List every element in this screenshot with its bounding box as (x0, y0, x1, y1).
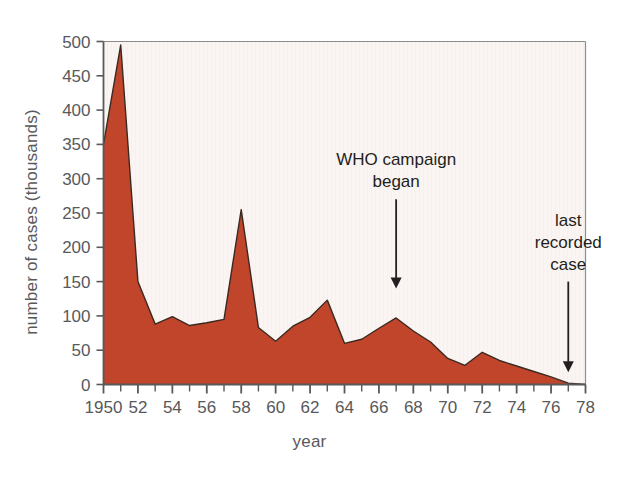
x-tick-label: 76 (542, 398, 561, 417)
annotation-label-line: recorded (535, 233, 602, 252)
x-tick-label: 72 (473, 398, 492, 417)
y-tick-label: 150 (62, 273, 90, 292)
annotation-label-line: WHO campaign (336, 150, 456, 169)
y-axis-ticks: 050100150200250300350400450500 (62, 33, 103, 395)
x-tick-label: 58 (232, 398, 251, 417)
y-tick-label: 50 (72, 341, 91, 360)
annotation-label-line: case (550, 255, 586, 274)
x-axis-title: year (0, 432, 619, 452)
y-tick-label: 400 (62, 101, 90, 120)
x-tick-label: 68 (404, 398, 423, 417)
annotation-label-line: began (373, 172, 420, 191)
x-tick-label: 54 (163, 398, 182, 417)
x-tick-label: 62 (301, 398, 320, 417)
y-tick-label: 250 (62, 204, 90, 223)
y-tick-label: 0 (81, 376, 90, 395)
x-tick-label: 78 (576, 398, 595, 417)
x-tick-label: 70 (438, 398, 457, 417)
x-tick-label: 56 (197, 398, 216, 417)
x-tick-label: 64 (335, 398, 354, 417)
y-tick-label: 500 (62, 33, 90, 52)
x-tick-label: 52 (128, 398, 147, 417)
annotation-label-line: last (555, 211, 582, 230)
y-tick-label: 200 (62, 238, 90, 257)
x-tick-label: 60 (266, 398, 285, 417)
y-tick-label: 450 (62, 67, 90, 86)
chart-canvas: 0501001502002503003504004505001950525456… (0, 0, 619, 478)
x-tick-label: 66 (369, 398, 388, 417)
y-tick-label: 350 (62, 135, 90, 154)
x-tick-label: 1950 (85, 398, 123, 417)
x-tick-label: 74 (507, 398, 526, 417)
y-axis-title: number of cases (thousands) (22, 72, 42, 372)
y-tick-label: 300 (62, 170, 90, 189)
smallpox-cases-area-chart: 0501001502002503003504004505001950525456… (0, 0, 619, 478)
x-axis-ticks: 19505254565860626466687072747678 (85, 385, 595, 417)
y-tick-label: 100 (62, 307, 90, 326)
